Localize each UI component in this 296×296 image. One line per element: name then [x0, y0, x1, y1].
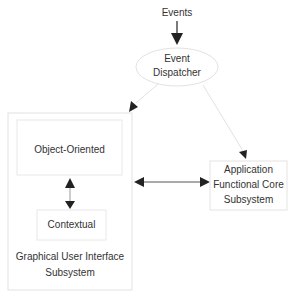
core-label-line2: Functional Core — [210, 178, 287, 191]
dispatcher-to-core-line — [203, 85, 243, 151]
core-arrowhead-icon — [239, 150, 247, 159]
dispatcher-to-gui-line — [136, 84, 158, 103]
core-label-line1: Application — [210, 163, 287, 176]
dispatcher-label-line1: Event — [137, 52, 217, 65]
gui-title-line1: Graphical User Interface — [8, 250, 132, 263]
core-label-line3: Subsystem — [210, 193, 287, 206]
contextual-label: Contextual — [37, 218, 106, 231]
dispatcher-label-line2: Dispatcher — [137, 66, 217, 79]
events-arrowhead-icon — [171, 33, 183, 45]
left-arrowhead-icon — [134, 177, 144, 187]
right-arrowhead-icon — [200, 177, 210, 187]
object-oriented-label: Object-Oriented — [17, 143, 122, 156]
gui-title-line2: Subsystem — [8, 266, 132, 279]
events-label: Events — [147, 6, 207, 19]
